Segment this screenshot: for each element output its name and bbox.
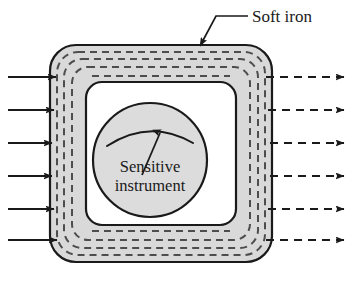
instrument-label-line-2: instrument (115, 176, 186, 195)
soft-iron-leader-line (200, 16, 248, 46)
magnetic-shielding-figure: Sensitive instrument Soft iron (0, 0, 352, 281)
diagram-canvas: Sensitive instrument Soft iron (0, 0, 352, 281)
outgoing-field-arrows (266, 77, 344, 240)
soft-iron-label: Soft iron (252, 7, 312, 26)
soft-iron-annotation: Soft iron (200, 7, 312, 46)
instrument-label-line-1: Sensitive (120, 157, 181, 176)
sensitive-instrument: Sensitive instrument (93, 103, 207, 217)
